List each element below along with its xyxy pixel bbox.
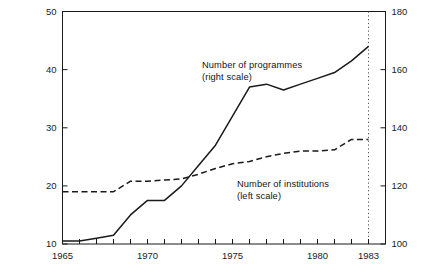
right-axis-tick-labels: 100120140160180: [392, 6, 408, 250]
bottom-tick-label-1965: 1965: [52, 250, 73, 261]
left-tick-label-50: 50: [46, 6, 57, 17]
annotation-institutions-line2: (left scale): [237, 191, 329, 203]
plot-border: [63, 12, 386, 245]
left-axis-ticks: [63, 12, 68, 245]
annotation-programmes-line2: (right scale): [202, 72, 302, 84]
left-tick-label-20: 20: [46, 180, 57, 191]
bottom-tick-label-1980: 1980: [307, 250, 328, 261]
right-tick-label-120: 120: [392, 180, 408, 191]
bottom-axis-tick-labels: 19651970197519801983: [52, 250, 379, 261]
annotation-institutions: Number of institutions (left scale): [237, 179, 329, 202]
bottom-tick-label-1970: 1970: [137, 250, 158, 261]
left-tick-label-10: 10: [46, 238, 57, 249]
chart-plot-area: 1020304050 100120140160180 1965197019751…: [0, 0, 440, 273]
bottom-tick-label-1975: 1975: [222, 250, 243, 261]
left-tick-label-40: 40: [46, 64, 57, 75]
annotation-programmes-line1: Number of programmes: [202, 60, 302, 72]
right-tick-label-160: 160: [392, 64, 408, 75]
annotation-programmes: Number of programmes (right scale): [202, 60, 302, 83]
bottom-tick-label-1983: 1983: [358, 250, 379, 261]
left-tick-label-30: 30: [46, 122, 57, 133]
plot-frame: [63, 12, 386, 245]
annotation-institutions-line1: Number of institutions: [237, 179, 329, 191]
right-tick-label-100: 100: [392, 238, 408, 249]
bottom-axis-ticks: [63, 239, 386, 244]
right-axis-ticks: [381, 12, 386, 245]
right-tick-label-180: 180: [392, 6, 408, 17]
left-axis-tick-labels: 1020304050: [46, 6, 57, 250]
right-tick-label-140: 140: [392, 122, 408, 133]
chart-figure: 1020304050 100120140160180 1965197019751…: [0, 0, 440, 273]
